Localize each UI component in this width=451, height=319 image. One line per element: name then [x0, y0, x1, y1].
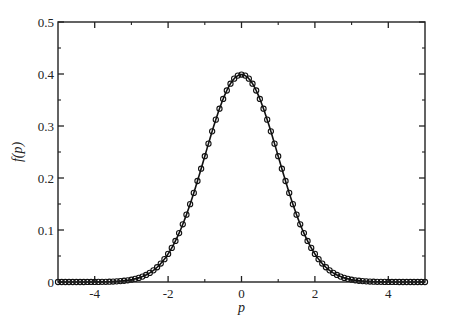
x-tick-label: -4 [89, 286, 100, 301]
axis-ticks [58, 22, 425, 282]
x-tick-label: 4 [385, 286, 392, 301]
y-tick-label: 0 [48, 275, 55, 290]
y-tick-label: 0.3 [38, 119, 54, 134]
analytic-curve [58, 75, 425, 282]
y-tick-label: 0.5 [38, 15, 54, 30]
x-tick-label: 0 [238, 286, 245, 301]
y-tick-label: 0.4 [38, 67, 55, 82]
x-tick-label: -2 [163, 286, 174, 301]
x-tick-label: 2 [312, 286, 319, 301]
y-tick-label: 0.1 [38, 223, 54, 238]
plot-frame [58, 22, 425, 282]
y-axis-label: f(p) [10, 142, 26, 163]
x-axis-label: p [237, 300, 245, 315]
y-tick-label: 0.2 [38, 171, 54, 186]
plot-area [55, 72, 427, 285]
chart: -4-202400.10.20.30.40.5 p f(p) [0, 0, 451, 319]
tick-labels: -4-202400.10.20.30.40.5 [38, 15, 392, 302]
